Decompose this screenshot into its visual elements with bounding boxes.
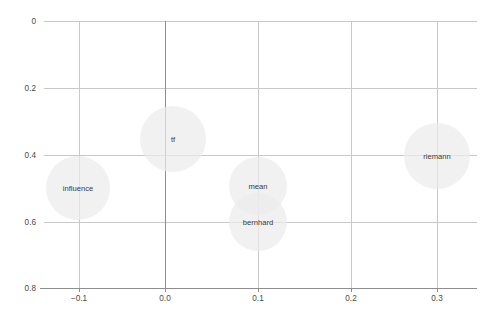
x-tick-label-0: −0.1 [71,294,88,303]
y-tick-label-4: 0.8 [25,284,37,293]
y-tick-label-0: 0 [31,17,36,26]
x-tick-label-2: 0.1 [252,294,264,303]
bubble-label-riemann: riemann [423,152,450,161]
x-tick-label-1: 0.0 [159,294,171,303]
bubble-label-bernhard: bernhard [243,218,273,227]
y-tick-label-2: 0.4 [25,151,37,160]
x-axis-tick-labels: −0.10.00.10.20.3 [71,294,443,303]
y-tick-label-3: 0.6 [25,218,37,227]
y-tick-label-1: 0.2 [25,84,37,93]
bubble-label-influence: influence [63,184,93,193]
y-axis-tick-labels: 00.20.40.60.8 [25,17,37,293]
x-tick-label-4: 0.3 [431,294,443,303]
chart-canvas: influencetfmeanbernhardriemann 00.20.40.… [0,0,489,321]
bubble-chart: influencetfmeanbernhardriemann 00.20.40.… [0,0,489,321]
x-tick-label-3: 0.2 [345,294,357,303]
bubble-label-mean: mean [249,182,268,191]
